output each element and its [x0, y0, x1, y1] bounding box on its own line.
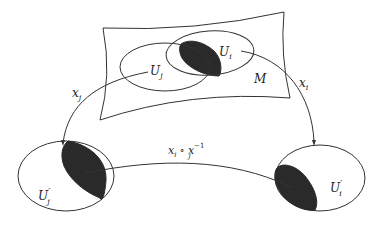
- overlap-region: [180, 41, 221, 76]
- label-chart-domain-j: Uj: [150, 64, 163, 80]
- label-chart-domain-i: Ui: [219, 45, 232, 61]
- label-map-j: xj: [72, 86, 82, 102]
- map-arrow-j: [63, 72, 148, 143]
- image-overlap-i: [275, 165, 317, 210]
- label-manifold: M: [253, 72, 267, 86]
- transition-start-dot: [85, 172, 87, 174]
- label-image-i: U′i: [330, 179, 342, 198]
- label-image-j: U′j: [38, 187, 50, 206]
- label-transition-map: xi∘x−1j: [168, 142, 204, 160]
- transition-end-dot: [290, 186, 292, 188]
- transition-map-arrow: [86, 163, 291, 187]
- label-map-i: xi: [299, 76, 309, 92]
- manifold-chart-diagram: Uj Ui M xj xi U′j U′i: [0, 0, 374, 227]
